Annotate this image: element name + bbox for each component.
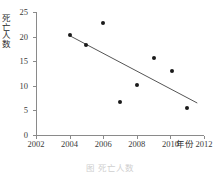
x-tick-label: 2002 (28, 140, 45, 149)
y-tick-label: 5 (24, 106, 28, 115)
x-axis-title: 年份 (176, 140, 194, 149)
y-tick: 25 (33, 12, 36, 13)
y-tick-label: 0 (24, 131, 28, 140)
y-tick-label: 25 (20, 8, 29, 17)
trend-line (36, 12, 204, 135)
y-tick: 10 (33, 86, 36, 87)
data-point (170, 69, 174, 73)
x-tick-label: 2012 (196, 140, 213, 149)
x-tick-label: 2006 (95, 140, 112, 149)
y-tick: 5 (33, 110, 36, 111)
data-point (118, 100, 122, 104)
y-tick-label: 15 (20, 57, 29, 66)
y-tick: 20 (33, 37, 36, 38)
figure-caption: 图 死亡人数 (0, 164, 220, 172)
plot-area: 0510152025 200220042006200820102012 (36, 12, 204, 135)
y-tick-label: 10 (20, 82, 29, 91)
data-point (135, 83, 139, 87)
x-axis-line (36, 135, 204, 136)
figure-container: 死亡人数 0510152025 200220042006200820102012… (0, 0, 220, 172)
y-axis-title: 死亡人数 (1, 14, 12, 49)
x-tick-label: 2008 (128, 140, 145, 149)
data-point (152, 56, 156, 60)
data-point (68, 33, 72, 37)
y-tick-label: 20 (20, 32, 29, 41)
y-tick: 15 (33, 61, 36, 62)
x-tick-label: 2004 (61, 140, 78, 149)
